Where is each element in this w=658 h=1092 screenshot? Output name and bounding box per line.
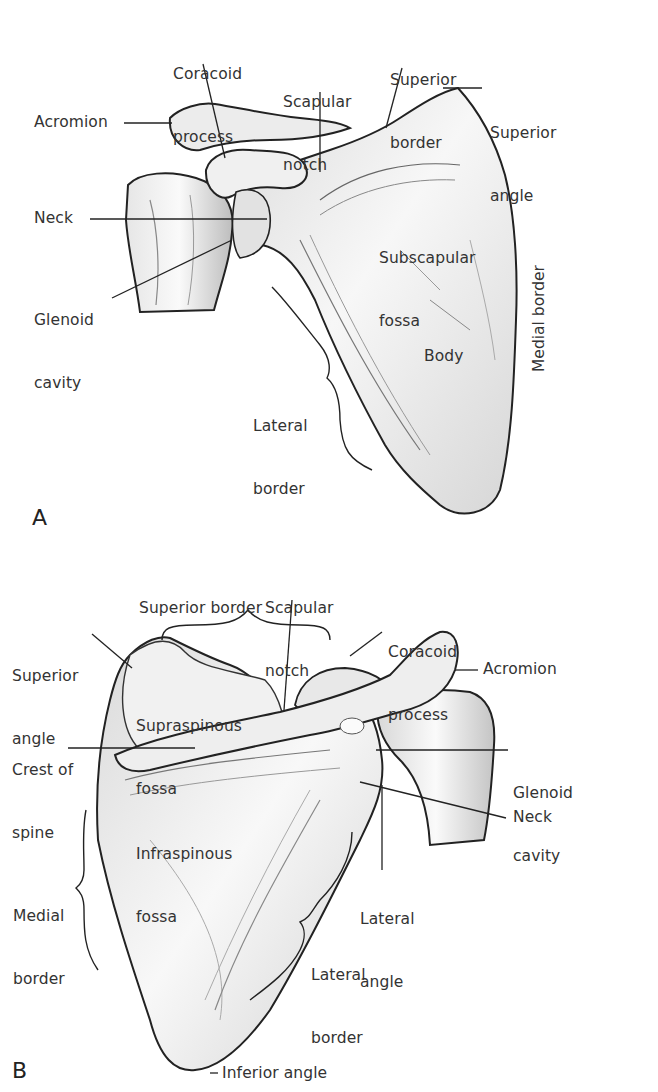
label-b-coracoid-process: Coracoid process xyxy=(388,600,457,768)
label-b-infraspinous-fossa: Infraspinous fossa xyxy=(136,802,232,970)
label-b-scapular-notch: Scapular notch xyxy=(265,556,334,724)
panel-letter-a: A xyxy=(32,505,47,530)
label-a-scapular-notch: Scapular notch xyxy=(283,50,352,218)
label-b-medial-border: Medial border xyxy=(13,864,65,1032)
label-a-glenoid-cavity: Glenoid cavity xyxy=(34,268,94,436)
label-b-crest-of-spine: Crest of spine xyxy=(12,718,73,886)
label-b-superior-border: Superior border xyxy=(139,598,262,619)
panel-a-anterior-view: Coracoid process Scapular notch Superior… xyxy=(0,0,658,540)
label-b-lateral-angle: Lateral angle xyxy=(360,867,415,1035)
label-a-neck: Neck xyxy=(34,208,73,229)
label-a-medial-border: Medial border xyxy=(530,265,548,372)
label-a-coracoid-process: Coracoid process xyxy=(173,22,242,190)
label-b-acromion: Acromion xyxy=(483,659,557,680)
label-a-acromion: Acromion xyxy=(34,112,108,133)
label-b-neck: Neck xyxy=(513,807,552,828)
panel-letter-b: B xyxy=(12,1058,27,1083)
label-a-body: Body xyxy=(424,346,464,367)
label-a-lateral-border: Lateral border xyxy=(253,374,308,542)
panel-b-posterior-view: Scapular notch Superior border Coracoid … xyxy=(0,540,658,1092)
label-b-inferior-angle: Inferior angle xyxy=(222,1063,327,1084)
label-a-superior-angle: Superior angle xyxy=(490,81,556,249)
label-a-superior-border: Superior border xyxy=(390,28,456,196)
medial-border-bracket xyxy=(76,810,98,970)
